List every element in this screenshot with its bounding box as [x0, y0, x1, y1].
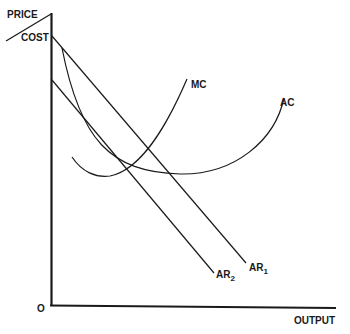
mc-label: MC [191, 79, 207, 90]
ar2-label: AR2 [216, 269, 235, 283]
ar2-label-text: AR [216, 269, 230, 280]
ac-curve [62, 48, 284, 174]
ar2-label-subscript: 2 [230, 274, 234, 283]
y-axis-label-cost: COST [21, 32, 49, 43]
ar1-label: AR1 [249, 262, 268, 276]
x-axis [50, 306, 336, 309]
ar2-curve [52, 80, 214, 273]
diagram-canvas [0, 0, 350, 334]
x-axis-label-output: OUTPUT [294, 315, 335, 326]
origin-label: O [37, 303, 45, 314]
y-axis-label-price: PRICE [7, 9, 38, 20]
ar1-label-subscript: 1 [263, 267, 267, 276]
ar1-label-text: AR [249, 262, 263, 273]
ar1-curve [52, 36, 246, 263]
ac-label: AC [280, 97, 294, 108]
